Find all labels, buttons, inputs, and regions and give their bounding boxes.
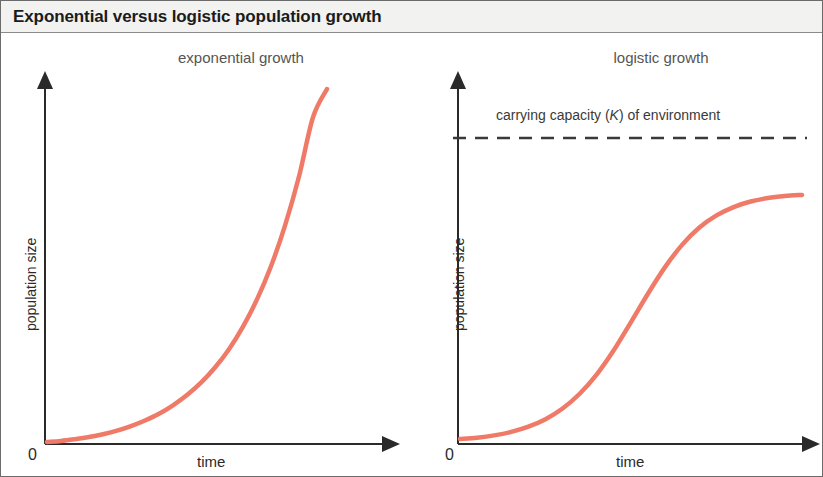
axes-exponential [45, 85, 386, 444]
figure-container: Exponential versus logistic population g… [0, 0, 823, 477]
logistic-growth-curve [460, 195, 802, 439]
plot-canvas [1, 1, 823, 477]
exponential-growth-curve [47, 89, 327, 442]
